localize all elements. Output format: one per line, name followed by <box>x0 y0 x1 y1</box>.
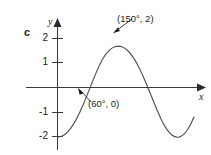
y-tick-label-1: 1 <box>32 57 48 67</box>
maximum-point-annotation: (150°, 2) <box>117 14 154 24</box>
y-tick-label-minus-2: -2 <box>28 131 48 141</box>
part-label: c <box>24 27 30 38</box>
y-axis-arrowhead <box>54 18 62 27</box>
x-axis-label: x <box>199 92 203 102</box>
zero-annotation-arrowhead <box>78 88 84 95</box>
y-tick-label-2: 2 <box>32 33 48 43</box>
y-axis-label: y <box>48 17 52 27</box>
x-intercept-point-annotation: (60°, 0) <box>88 99 119 109</box>
figure-container: c y x 2 1 -1 -2 (150°, 2) (60°, 0) <box>0 0 211 155</box>
y-tick-label-minus-1: -1 <box>28 107 48 117</box>
max-annotation-arrowhead <box>113 27 120 33</box>
sine-curve <box>58 46 194 137</box>
